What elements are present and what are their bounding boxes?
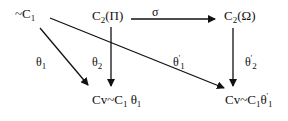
node-c2-omega: C2(Ω) — [224, 9, 256, 23]
node-cv-c1-theta1: Cv~C1 θ1 — [92, 93, 141, 107]
label-theta2-prime: θ'2 — [245, 56, 257, 68]
node-not-c1: ~C1 — [15, 7, 35, 21]
node-cv-c1-theta1-prime: Cv~C1θ'1 — [225, 93, 273, 107]
label-theta2: θ2 — [92, 56, 102, 68]
label-theta1-prime: θ'1 — [173, 56, 185, 68]
arrow-theta1 — [40, 28, 88, 85]
label-theta1: θ1 — [36, 56, 46, 68]
node-c2-pi: C2(Π) — [92, 9, 123, 23]
arrow-theta1-prime — [50, 18, 224, 88]
label-sigma: σ — [152, 6, 158, 18]
